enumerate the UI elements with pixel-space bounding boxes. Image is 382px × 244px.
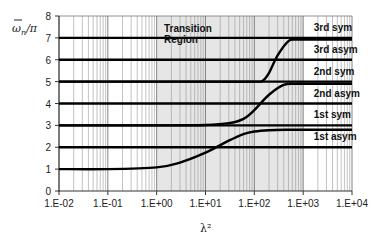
series-label: 3rd sym	[314, 22, 352, 33]
y-tick-label: 4	[45, 99, 51, 110]
y-axis-label: ωn/π	[12, 20, 38, 37]
series-label: 3rd asym	[314, 44, 358, 55]
transition-region-label: Transition	[164, 23, 212, 34]
series-label: 1st sym	[314, 109, 351, 120]
y-tick-label: 5	[45, 77, 51, 88]
x-axis-label: λ²	[200, 222, 211, 235]
x-tick-label: 1.E+02	[238, 198, 270, 209]
y-tick-label: 6	[45, 55, 51, 66]
x-tick-label: 1.E+01	[190, 198, 222, 209]
y-tick-label: 0	[45, 186, 51, 197]
transition-region-label-line2: Region	[164, 34, 198, 45]
x-tick-label: 1.E-01	[93, 198, 123, 209]
series-label: 2nd asym	[314, 88, 360, 99]
series-label: 1st asym	[314, 131, 357, 142]
x-tick-label: 1.E+03	[287, 198, 319, 209]
y-tick-label: 3	[45, 120, 51, 131]
x-tick-label: 1.E-02	[44, 198, 74, 209]
y-tick-label: 2	[45, 142, 51, 153]
x-tick-label: 1.E+00	[141, 198, 173, 209]
x-tick-label: 1.E+04	[336, 198, 368, 209]
y-tick-label: 1	[45, 164, 51, 175]
series-label: 2nd sym	[314, 66, 355, 77]
y-tick-label: 7	[45, 33, 51, 44]
svg-text:ωn/π: ωn/π	[12, 22, 38, 37]
frequency-vs-lambda-chart: 0123456781.E-021.E-011.E+001.E+011.E+021…	[0, 0, 382, 244]
y-tick-label: 8	[45, 11, 51, 22]
